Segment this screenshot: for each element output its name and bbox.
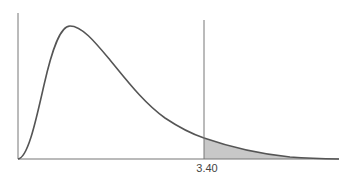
density-curve [18, 26, 339, 159]
f-distribution-chart: 3.40 [0, 0, 355, 179]
critical-value-label: 3.40 [196, 162, 217, 174]
shaded-tail-region [204, 138, 339, 159]
